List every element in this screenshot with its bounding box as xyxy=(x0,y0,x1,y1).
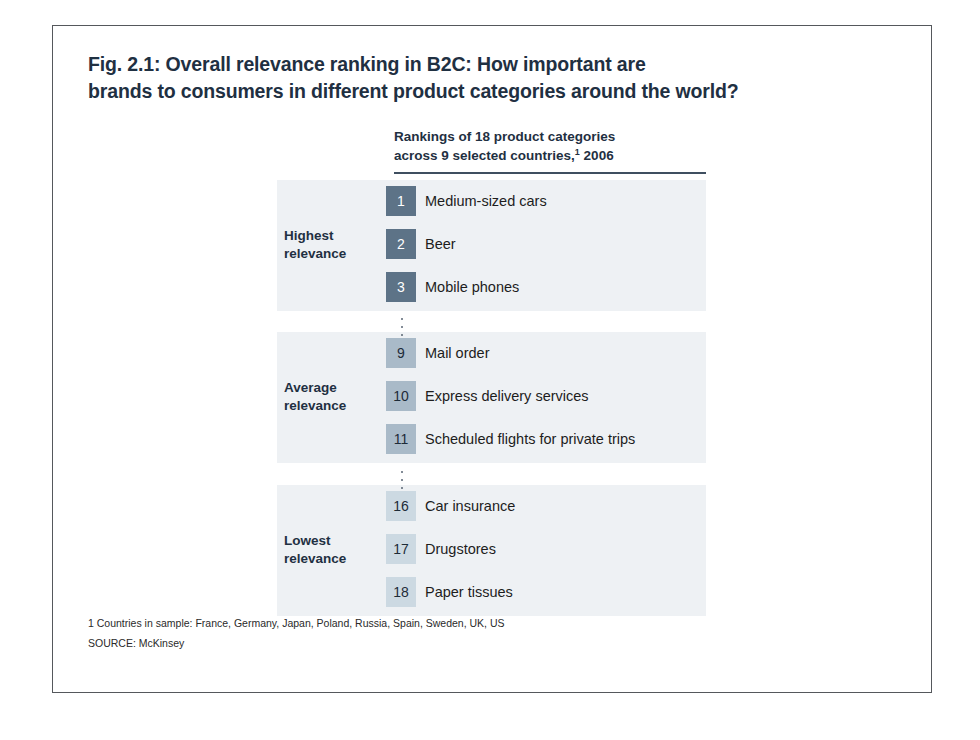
relevance-group-label-line: relevance xyxy=(284,550,346,568)
rank-badge: 16 xyxy=(386,491,416,521)
ranking-row: 16Car insurance xyxy=(386,491,515,521)
rank-badge: 3 xyxy=(386,272,416,302)
product-category-label: Beer xyxy=(425,236,456,252)
ranking-row: 1Medium-sized cars xyxy=(386,186,547,216)
ranking-chart: Highestrelevance1Medium-sized cars2Beer3… xyxy=(53,26,933,694)
product-category-label: Mobile phones xyxy=(425,279,519,295)
rank-badge: 1 xyxy=(386,186,416,216)
rank-badge: 18 xyxy=(386,577,416,607)
relevance-group-label-line: relevance xyxy=(284,245,346,263)
rank-badge: 11 xyxy=(386,424,416,454)
figure-page: Fig. 2.1: Overall relevance ranking in B… xyxy=(52,25,932,693)
ranking-row: 9Mail order xyxy=(386,338,489,368)
ranking-row: 10Express delivery services xyxy=(386,381,589,411)
product-category-label: Express delivery services xyxy=(425,388,589,404)
relevance-group-label-line: Lowest xyxy=(284,532,346,550)
relevance-group-label: Averagerelevance xyxy=(284,379,346,415)
product-category-label: Car insurance xyxy=(425,498,515,514)
relevance-group-label: Lowestrelevance xyxy=(284,532,346,568)
relevance-group-label-line: relevance xyxy=(284,397,346,415)
relevance-group-label: Highestrelevance xyxy=(284,227,346,263)
relevance-group-label-line: Highest xyxy=(284,227,346,245)
ranking-row: 18Paper tissues xyxy=(386,577,513,607)
product-category-label: Scheduled flights for private trips xyxy=(425,431,635,447)
product-category-label: Paper tissues xyxy=(425,584,513,600)
vertical-ellipsis-icon xyxy=(398,318,406,336)
product-category-label: Mail order xyxy=(425,345,489,361)
rank-badge: 10 xyxy=(386,381,416,411)
product-category-label: Drugstores xyxy=(425,541,496,557)
ranking-row: 3Mobile phones xyxy=(386,272,519,302)
ranking-row: 2Beer xyxy=(386,229,456,259)
footnote-countries: 1 Countries in sample: France, Germany, … xyxy=(88,613,505,633)
source-line: SOURCE: McKinsey xyxy=(88,633,505,653)
rank-badge: 17 xyxy=(386,534,416,564)
relevance-group-label-line: Average xyxy=(284,379,346,397)
ranking-row: 11Scheduled flights for private trips xyxy=(386,424,635,454)
vertical-ellipsis-icon xyxy=(398,471,406,489)
rank-badge: 2 xyxy=(386,229,416,259)
product-category-label: Medium-sized cars xyxy=(425,193,547,209)
ranking-row: 17Drugstores xyxy=(386,534,496,564)
footnotes: 1 Countries in sample: France, Germany, … xyxy=(88,613,505,654)
rank-badge: 9 xyxy=(386,338,416,368)
